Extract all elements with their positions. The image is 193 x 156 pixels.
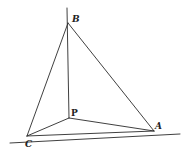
- line-ca: [27, 131, 154, 136]
- label-c: C: [25, 139, 33, 149]
- line-pc: [27, 118, 69, 136]
- label-a: A: [154, 121, 162, 131]
- diagram-svg: B P C A: [0, 0, 193, 156]
- line-bc: [27, 23, 68, 136]
- line-ba: [68, 23, 154, 131]
- line-pa: [69, 118, 154, 131]
- label-p: P: [71, 108, 78, 118]
- label-b: B: [71, 14, 80, 24]
- geometry-diagram: B P C A: [0, 0, 193, 156]
